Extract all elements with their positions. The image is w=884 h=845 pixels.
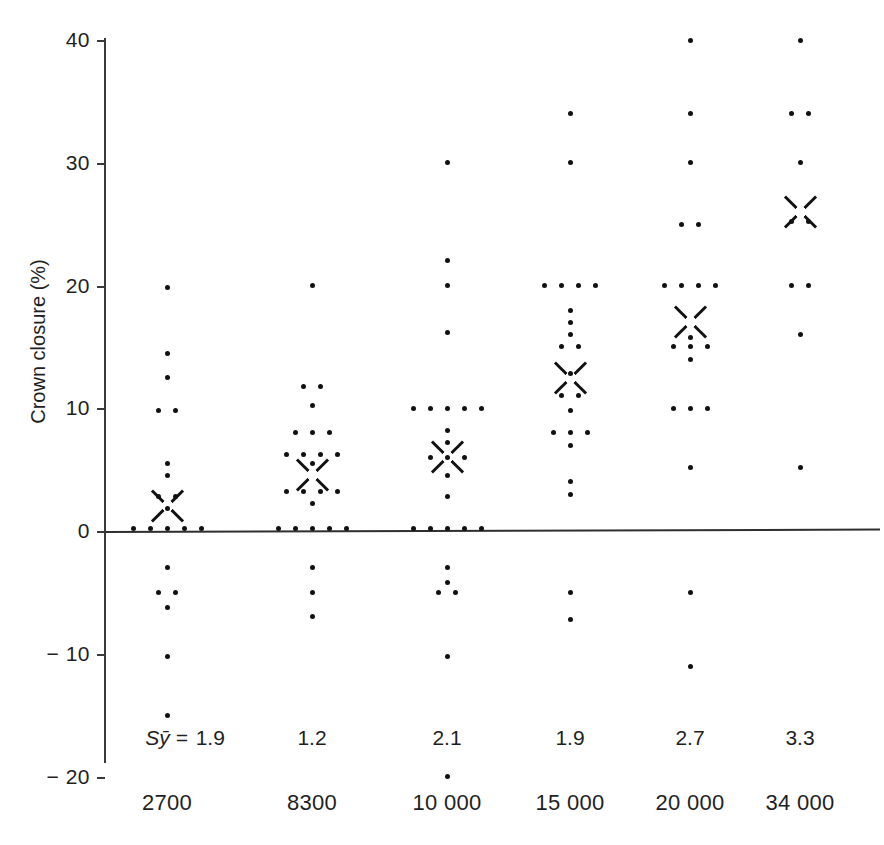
data-point — [479, 526, 484, 531]
data-point — [789, 283, 794, 288]
data-point — [688, 590, 693, 595]
data-point — [568, 160, 573, 165]
data-point — [318, 384, 323, 389]
standard-error-value: 1.9 — [196, 726, 225, 749]
data-point — [445, 580, 450, 585]
data-point — [576, 344, 581, 349]
data-point — [284, 452, 289, 457]
standard-error-value: 2.1 — [432, 726, 461, 749]
standard-error-label: 2.1 — [432, 726, 461, 750]
data-point — [165, 605, 170, 610]
standard-error-label: 1.9 — [555, 726, 584, 750]
data-point — [679, 222, 684, 227]
data-point — [789, 111, 794, 116]
standard-error-value: 2.7 — [675, 726, 704, 749]
data-point — [445, 494, 450, 499]
data-point — [173, 590, 178, 595]
mean-marker-stroke — [673, 306, 706, 339]
data-point — [335, 489, 340, 494]
y-axis-tick-label: − 20 — [30, 766, 90, 787]
data-point — [428, 406, 433, 411]
data-point — [551, 430, 556, 435]
data-point — [327, 430, 332, 435]
data-point — [301, 384, 306, 389]
y-axis-tick — [97, 286, 105, 288]
x-axis-category-label: 8300 — [287, 790, 337, 816]
data-point — [156, 494, 161, 499]
data-point — [559, 393, 564, 398]
data-point — [568, 479, 573, 484]
mean-marker-stroke — [783, 195, 816, 228]
x-axis-category-label: 34 000 — [765, 790, 834, 816]
data-point — [688, 160, 693, 165]
data-point — [165, 351, 170, 356]
data-point — [462, 406, 467, 411]
data-point — [165, 461, 170, 466]
mean-marker — [290, 453, 334, 497]
data-point — [310, 614, 315, 619]
data-point — [310, 461, 315, 466]
data-point — [428, 526, 433, 531]
y-axis-tick — [97, 408, 105, 410]
standard-error-value: 1.9 — [555, 726, 584, 749]
data-point — [156, 408, 161, 413]
data-point — [798, 465, 803, 470]
data-point — [806, 111, 811, 116]
data-point — [165, 285, 170, 290]
data-point — [445, 565, 450, 570]
data-point — [335, 452, 340, 457]
chart-figure: 403020100− 10− 20 Crown closure (%) Sȳ =… — [0, 0, 884, 845]
data-point — [428, 455, 433, 460]
data-point — [688, 664, 693, 669]
y-axis-tick-label: 30 — [30, 152, 90, 173]
data-point — [671, 344, 676, 349]
data-point — [284, 489, 289, 494]
data-point — [568, 430, 573, 435]
data-point — [310, 501, 315, 506]
standard-error-label: Sȳ = 1.9 — [145, 726, 225, 750]
data-point — [576, 283, 581, 288]
data-point — [585, 430, 590, 435]
data-point — [445, 330, 450, 335]
data-point — [568, 320, 573, 325]
mean-marker — [548, 356, 592, 400]
data-point — [445, 406, 450, 411]
data-point — [310, 526, 315, 531]
data-point — [445, 428, 450, 433]
data-point — [798, 332, 803, 337]
mean-marker — [778, 190, 822, 234]
data-point — [436, 590, 441, 595]
x-axis-category-label: 10 000 — [412, 790, 481, 816]
data-point — [445, 160, 450, 165]
data-point — [411, 406, 416, 411]
x-axis-category-label: 15 000 — [535, 790, 604, 816]
data-point — [705, 344, 710, 349]
data-point — [568, 408, 573, 413]
data-point — [173, 494, 178, 499]
data-point — [568, 443, 573, 448]
data-point — [688, 465, 693, 470]
data-point — [310, 403, 315, 408]
data-point — [688, 357, 693, 362]
data-point — [165, 713, 170, 718]
y-axis-tick — [97, 40, 105, 42]
data-point — [301, 452, 306, 457]
data-point — [156, 590, 161, 595]
data-point — [593, 283, 598, 288]
data-point — [568, 617, 573, 622]
y-axis-tick — [97, 654, 105, 656]
data-point — [165, 526, 170, 531]
data-point — [568, 590, 573, 595]
data-point — [293, 526, 298, 531]
data-point — [671, 406, 676, 411]
y-axis-tick-label: 40 — [30, 29, 90, 50]
mean-marker-stroke — [673, 306, 706, 339]
y-axis-title: Crown closure (%) — [27, 212, 50, 472]
data-point — [688, 406, 693, 411]
data-point — [806, 219, 811, 224]
y-axis-tick-label: − 10 — [30, 643, 90, 664]
y-axis-tick — [97, 531, 105, 533]
data-point — [798, 160, 803, 165]
plot-area: 403020100− 10− 20 Crown closure (%) Sȳ =… — [0, 0, 884, 845]
standard-error-label: 2.7 — [675, 726, 704, 750]
